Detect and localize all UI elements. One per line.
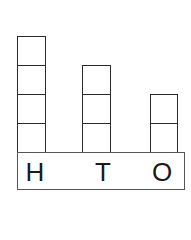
hundreds-label: H	[20, 158, 50, 186]
hundreds-block	[17, 36, 46, 66]
ones-label: O	[147, 158, 177, 186]
ones-block	[150, 123, 178, 153]
ones-block	[150, 94, 178, 124]
hundreds-block	[17, 123, 46, 153]
hundreds-block	[17, 65, 46, 95]
tens-block	[82, 94, 111, 124]
tens-block	[82, 65, 111, 95]
tens-block	[82, 123, 111, 153]
tens-label: T	[88, 158, 118, 186]
hundreds-block	[17, 94, 46, 124]
